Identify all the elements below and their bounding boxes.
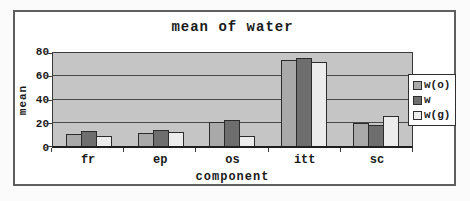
bar-group-os (197, 53, 269, 146)
y-tick-label-80: 80 (36, 45, 49, 59)
legend: w(o)ww(g) (408, 74, 456, 126)
bar-w(o)-sc (353, 123, 369, 146)
bar-w(o)-ep (138, 133, 154, 146)
bar-w(g)-sc (383, 116, 399, 146)
y-tick-mark-20 (48, 123, 52, 124)
legend-label-w: w (424, 94, 431, 106)
y-tick-label-0: 0 (42, 141, 49, 155)
x-tick-label-fr: fr (52, 153, 124, 167)
chart-container: mean of water mean 020406080 freposittsc… (13, 10, 456, 186)
bar-w-itt (296, 58, 312, 146)
y-tick-label-20: 20 (36, 117, 49, 131)
x-tick-label-itt: itt (269, 153, 341, 167)
plot-area (52, 52, 413, 148)
x-tick-mark-5 (412, 148, 413, 152)
bar-w-fr (81, 131, 97, 146)
y-tick-mark-80 (48, 53, 52, 54)
bar-groups (53, 53, 412, 146)
chart-title: mean of water (52, 19, 413, 35)
bar-group-ep (125, 53, 197, 146)
legend-entry-w: w (413, 94, 453, 106)
x-axis-tick-labels: freposittsc (52, 153, 413, 167)
y-axis-tick-labels: 020406080 (25, 52, 49, 148)
x-tick-mark-3 (268, 148, 269, 152)
legend-swatch-w (413, 96, 422, 105)
screenshot-root: { "chart_data": { "type": "bar", "title"… (0, 0, 470, 201)
x-tick-mark-2 (195, 148, 196, 152)
bar-group-fr (53, 53, 125, 146)
legend-swatch-w(g) (413, 111, 422, 120)
legend-label-w(g): w(g) (424, 109, 450, 121)
bar-w-sc (368, 125, 384, 146)
x-tick-label-ep: ep (124, 153, 196, 167)
bar-w-os (224, 120, 240, 146)
legend-swatch-w(o) (413, 81, 422, 90)
legend-label-w(o): w(o) (424, 79, 450, 91)
bar-w(o)-itt (281, 60, 297, 146)
bar-w(g)-itt (311, 62, 327, 146)
x-tick-mark-4 (340, 148, 341, 152)
bar-w-ep (153, 130, 169, 146)
x-tick-label-os: os (196, 153, 268, 167)
y-tick-mark-60 (48, 76, 52, 77)
x-axis-ticks (52, 148, 413, 152)
bar-w(g)-os (239, 136, 255, 146)
y-tick-mark-40 (48, 100, 52, 101)
x-tick-label-sc: sc (341, 153, 413, 167)
x-tick-mark-1 (123, 148, 124, 152)
bar-w(g)-fr (96, 136, 112, 146)
bar-w(o)-fr (66, 134, 82, 146)
y-tick-mark-0 (48, 146, 52, 147)
x-axis-title: component (52, 170, 413, 184)
bar-group-itt (268, 53, 340, 146)
legend-entry-w(g): w(g) (413, 109, 453, 121)
bar-w(o)-os (209, 122, 225, 146)
legend-entry-w(o): w(o) (413, 79, 453, 91)
bar-w(g)-ep (168, 132, 184, 146)
bar-group-sc (340, 53, 412, 146)
x-tick-mark-0 (51, 148, 52, 152)
